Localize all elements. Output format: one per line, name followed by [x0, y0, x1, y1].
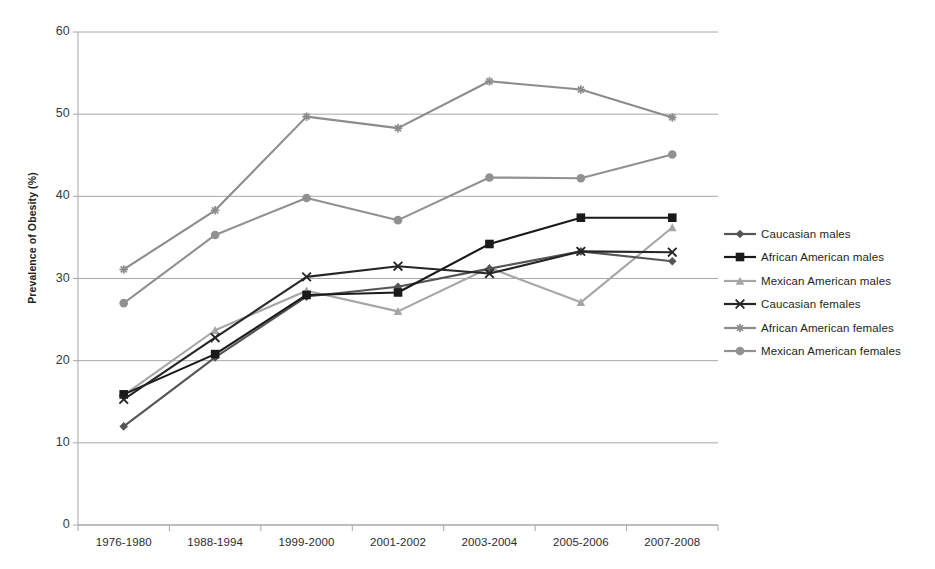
y-tick-label: 20: [24, 353, 70, 367]
legend-marker-triangle-icon: [723, 274, 757, 288]
legend-label: Caucasian males: [761, 228, 851, 240]
legend-item[interactable]: Caucasian males: [723, 222, 935, 246]
legend-label: African American males: [761, 251, 884, 263]
legend-item[interactable]: Mexican American females: [723, 340, 935, 364]
obesity-prevalence-line-chart: Prevalence of Obesity (%) 0102030405060 …: [0, 0, 935, 569]
legend-marker-square-icon: [723, 250, 757, 264]
legend-item[interactable]: African American females: [723, 316, 935, 340]
marker-circle: [668, 150, 677, 159]
marker-circle: [302, 194, 311, 203]
legend-item[interactable]: African American males: [723, 246, 935, 270]
series-african-american-males: [119, 213, 676, 398]
marker-circle: [211, 231, 220, 240]
marker-circle: [394, 216, 403, 225]
legend-label: Mexican American females: [761, 345, 901, 357]
legend-marker-asterisk-icon: [723, 321, 757, 335]
marker-diamond: [736, 229, 745, 238]
series-line: [124, 154, 673, 303]
marker-triangle: [668, 223, 677, 231]
marker-square: [577, 213, 586, 222]
marker-square: [736, 253, 745, 262]
chart-legend: Caucasian malesAfrican American malesMex…: [723, 222, 935, 363]
y-tick-label: 40: [24, 188, 70, 202]
legend-item[interactable]: Mexican American males: [723, 269, 935, 293]
x-tick-label: 1976-1980: [79, 536, 169, 548]
legend-label: African American females: [761, 322, 894, 334]
y-tick-label: 10: [24, 435, 70, 449]
x-tick-label: 2005-2006: [536, 536, 626, 548]
legend-item[interactable]: Caucasian females: [723, 293, 935, 317]
legend-label: Mexican American males: [761, 275, 891, 287]
marker-square: [394, 288, 403, 297]
legend-marker-diamond-icon: [723, 227, 757, 241]
series-line: [124, 218, 673, 395]
series-caucasian-females: [119, 247, 676, 403]
marker-square: [668, 213, 677, 222]
marker-square: [211, 350, 220, 359]
marker-circle: [119, 299, 128, 308]
series-mexican-american-males: [119, 223, 676, 399]
series-line: [124, 251, 673, 399]
legend-label: Caucasian females: [761, 298, 861, 310]
marker-circle: [736, 347, 745, 356]
y-tick-label: 30: [24, 271, 70, 285]
marker-circle: [577, 174, 586, 183]
x-tick-label: 1988-1994: [170, 536, 260, 548]
x-tick-label: 2001-2002: [353, 536, 443, 548]
y-tick-label: 60: [24, 24, 70, 38]
x-tick-label: 2007-2008: [627, 536, 717, 548]
marker-square: [485, 240, 494, 249]
y-tick-label: 0: [24, 517, 70, 531]
marker-circle: [485, 173, 494, 182]
y-axis-label: Prevalence of Obesity (%): [26, 143, 38, 333]
y-tick-label: 50: [24, 106, 70, 120]
legend-marker-circle-icon: [723, 344, 757, 358]
marker-diamond: [668, 257, 677, 266]
marker-square: [302, 291, 311, 300]
series-line: [124, 251, 673, 426]
legend-marker-x-icon: [723, 297, 757, 311]
x-tick-label: 1999-2000: [262, 536, 352, 548]
x-tick-label: 2003-2004: [444, 536, 534, 548]
